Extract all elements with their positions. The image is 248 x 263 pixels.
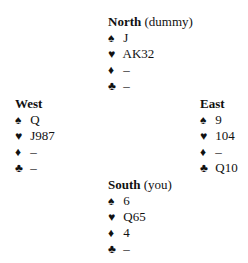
diamond-icon: ♦ (15, 144, 27, 160)
club-icon: ♣ (15, 160, 27, 176)
east-hearts: ♥ 104 (200, 128, 238, 144)
heart-icon: ♥ (15, 128, 27, 144)
north-hand: North (dummy) ♠ J ♥ AK32 ♦ – ♣ – (108, 14, 193, 94)
diamond-icon: ♦ (200, 144, 212, 160)
diamond-icon: ♦ (108, 225, 120, 241)
west-title: West (15, 96, 55, 112)
east-title: East (200, 96, 238, 112)
south-hearts: ♥ Q65 (108, 209, 172, 225)
heart-icon: ♥ (108, 46, 120, 62)
north-clubs: ♣ – (108, 78, 193, 94)
east-spades: ♠ 9 (200, 112, 238, 128)
north-title: North (dummy) (108, 14, 193, 30)
south-title: South (you) (108, 177, 172, 193)
west-spades: ♠ Q (15, 112, 55, 128)
west-hand: West ♠ Q ♥ J987 ♦ – ♣ – (15, 96, 55, 176)
east-name: East (200, 96, 225, 111)
club-icon: ♣ (108, 241, 120, 257)
spade-icon: ♠ (15, 112, 27, 128)
heart-icon: ♥ (108, 209, 120, 225)
west-diamonds: ♦ – (15, 144, 55, 160)
club-icon: ♣ (108, 78, 120, 94)
east-hand: East ♠ 9 ♥ 104 ♦ – ♣ Q10 (200, 96, 238, 176)
spade-icon: ♠ (108, 30, 120, 46)
club-icon: ♣ (200, 160, 212, 176)
west-clubs: ♣ – (15, 160, 55, 176)
south-note: (you) (144, 177, 172, 192)
west-name: West (15, 96, 42, 111)
north-note: (dummy) (144, 14, 192, 29)
spade-icon: ♠ (200, 112, 212, 128)
south-diamonds: ♦ 4 (108, 225, 172, 241)
north-diamonds: ♦ – (108, 62, 193, 78)
spade-icon: ♠ (108, 193, 120, 209)
north-hearts: ♥ AK32 (108, 46, 193, 62)
heart-icon: ♥ (200, 128, 212, 144)
south-clubs: ♣ – (108, 241, 172, 257)
north-name: North (108, 14, 141, 29)
south-spades: ♠ 6 (108, 193, 172, 209)
east-clubs: ♣ Q10 (200, 160, 238, 176)
east-diamonds: ♦ – (200, 144, 238, 160)
west-hearts: ♥ J987 (15, 128, 55, 144)
south-name: South (108, 177, 141, 192)
diamond-icon: ♦ (108, 62, 120, 78)
south-hand: South (you) ♠ 6 ♥ Q65 ♦ 4 ♣ – (108, 177, 172, 257)
north-spades: ♠ J (108, 30, 193, 46)
